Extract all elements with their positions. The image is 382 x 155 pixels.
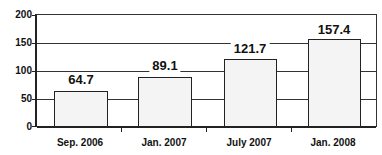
value-label: 64.7 xyxy=(65,72,96,87)
x-tick-mark xyxy=(291,128,292,132)
y-tick-label: 0 xyxy=(0,121,32,132)
x-tick-label: Jan. 2008 xyxy=(310,137,355,148)
bar-sep-2006 xyxy=(54,91,108,127)
value-label: 121.7 xyxy=(231,41,270,56)
y-tick-mark xyxy=(32,99,37,100)
y-tick-mark xyxy=(32,126,37,127)
x-tick-mark xyxy=(121,128,122,132)
bar-jan-2007 xyxy=(138,77,192,127)
y-tick-mark xyxy=(32,71,37,72)
x-tick-label: Sep. 2006 xyxy=(57,137,103,148)
y-tick-label: 100 xyxy=(0,65,32,76)
plot-area: 64.7 89.1 121.7 157.4 xyxy=(35,14,377,127)
y-tick-mark xyxy=(32,15,37,16)
x-tick-label: July 2007 xyxy=(226,137,271,148)
x-tick-label: Jan. 2007 xyxy=(141,137,186,148)
bar-jan-2008 xyxy=(308,39,361,127)
value-label: 157.4 xyxy=(315,22,354,37)
y-tick-label: 150 xyxy=(0,37,32,48)
y-tick-mark xyxy=(32,43,37,44)
y-tick-label: 200 xyxy=(0,9,32,20)
y-tick-label: 50 xyxy=(0,93,32,104)
value-label: 89.1 xyxy=(149,58,180,73)
x-tick-mark xyxy=(206,128,207,132)
bar-july-2007 xyxy=(224,59,277,127)
